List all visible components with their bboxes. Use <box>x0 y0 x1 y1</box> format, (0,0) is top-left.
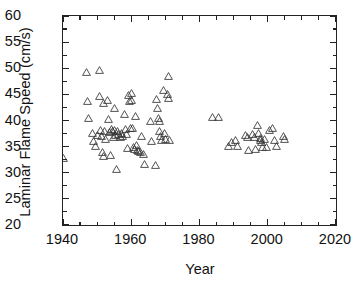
y-axis-tick-label: 60 <box>0 8 21 22</box>
y-axis-major-tick <box>63 224 69 225</box>
x-axis-minor-tick <box>284 222 285 226</box>
y-axis-major-tick <box>330 198 336 199</box>
data-point-marker <box>122 130 131 138</box>
plot-area <box>62 15 337 226</box>
y-axis-major-tick <box>330 42 336 43</box>
data-point-marker <box>131 112 140 120</box>
data-point-marker <box>114 130 123 138</box>
data-point-marker <box>260 135 269 143</box>
y-axis-tick-label: 30 <box>0 165 21 179</box>
x-axis-minor-tick <box>148 222 149 226</box>
data-point-marker <box>134 147 143 155</box>
x-axis-minor-tick <box>250 222 251 226</box>
data-point-marker <box>270 136 279 144</box>
y-axis-major-tick <box>63 15 69 16</box>
y-axis-tick-label: 25 <box>0 191 21 205</box>
data-point-marker <box>268 124 277 132</box>
data-point-marker <box>251 145 260 153</box>
data-point-marker <box>244 146 253 154</box>
data-point-marker <box>103 96 112 104</box>
y-axis-major-tick <box>63 146 69 147</box>
x-axis-tick-label: 1960 <box>100 231 160 247</box>
y-axis-minor-tick <box>63 133 67 134</box>
data-point-marker <box>258 143 267 151</box>
data-point-marker <box>280 135 289 143</box>
y-axis-major-tick <box>330 146 336 147</box>
data-point-marker <box>151 161 160 169</box>
data-point-marker <box>128 124 137 132</box>
y-axis-minor-tick <box>63 28 67 29</box>
data-point-marker <box>127 89 136 97</box>
x-axis-major-tick <box>131 219 132 225</box>
data-point-marker <box>250 133 259 141</box>
data-point-marker <box>88 129 97 137</box>
data-point-marker <box>110 126 119 134</box>
data-point-marker <box>101 135 110 143</box>
y-axis-tick-label: 20 <box>0 217 21 231</box>
data-point-marker <box>106 151 115 159</box>
y-axis-major-tick <box>63 198 69 199</box>
y-axis-major-tick <box>330 120 336 121</box>
data-point-marker <box>108 127 117 135</box>
data-point-marker <box>99 99 108 107</box>
y-axis-minor-tick <box>333 211 337 212</box>
data-point-marker <box>95 66 104 74</box>
x-axis-minor-tick <box>148 16 149 20</box>
y-axis-minor-tick <box>333 81 337 82</box>
data-point-marker <box>156 132 165 140</box>
x-axis-major-tick <box>62 219 63 225</box>
data-point-marker <box>147 137 156 145</box>
data-point-marker <box>154 114 163 122</box>
data-point-marker <box>123 144 132 152</box>
y-axis-minor-tick <box>333 107 337 108</box>
data-point-marker <box>95 92 104 100</box>
x-axis-minor-tick <box>284 16 285 20</box>
data-point-marker <box>152 95 161 103</box>
data-point-marker <box>233 142 242 150</box>
data-point-marker <box>105 128 114 136</box>
data-point-marker <box>133 146 142 154</box>
data-point-marker <box>265 126 274 134</box>
y-axis-major-tick <box>63 42 69 43</box>
data-point-marker <box>227 138 236 146</box>
x-axis-tick-label: 1940 <box>32 231 92 247</box>
x-axis-minor-tick <box>165 222 166 226</box>
y-axis-minor-tick <box>63 211 67 212</box>
x-axis-minor-tick <box>250 16 251 20</box>
data-point-marker <box>272 142 281 150</box>
data-point-marker <box>155 127 164 135</box>
data-point-marker <box>96 126 105 134</box>
data-point-marker <box>91 142 100 150</box>
data-point-marker <box>84 114 93 122</box>
data-point-marker <box>82 68 91 76</box>
y-axis-major-tick <box>63 68 69 69</box>
y-axis-major-tick <box>63 120 69 121</box>
data-point-marker <box>165 136 174 144</box>
data-point-marker <box>121 125 130 133</box>
chart-figure: Laminar Flame Speed (cm/s) Year 20253035… <box>0 0 364 288</box>
y-axis-tick-label: 50 <box>0 60 21 74</box>
data-point-marker <box>146 117 155 125</box>
data-point-marker <box>224 142 233 150</box>
data-point-marker <box>161 135 170 143</box>
y-axis-major-tick <box>63 94 69 95</box>
data-point-marker <box>93 131 102 139</box>
data-point-marker <box>241 131 250 139</box>
data-point-marker <box>120 110 129 118</box>
x-axis-tick-label: 1980 <box>169 231 229 247</box>
y-axis-minor-tick <box>333 185 337 186</box>
y-axis-major-tick <box>330 172 336 173</box>
y-axis-major-tick <box>63 172 69 173</box>
x-axis-minor-tick <box>216 222 217 226</box>
data-point-marker <box>125 97 134 105</box>
data-point-marker <box>118 132 127 140</box>
x-axis-major-tick <box>131 16 132 22</box>
x-axis-major-tick <box>62 16 63 22</box>
x-axis-minor-tick <box>114 16 115 20</box>
y-axis-minor-tick <box>63 159 67 160</box>
data-point-marker <box>243 133 252 141</box>
data-point-marker <box>157 136 166 144</box>
data-point-marker <box>100 127 109 135</box>
data-point-marker <box>130 145 139 153</box>
y-axis-major-tick <box>330 68 336 69</box>
